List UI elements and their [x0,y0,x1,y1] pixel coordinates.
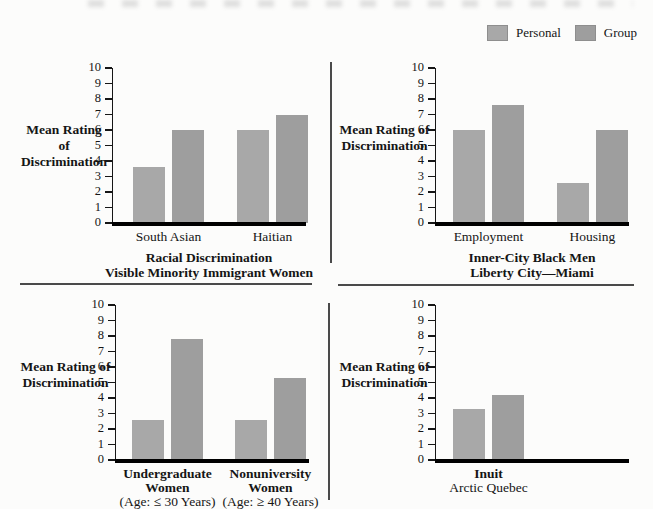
y-tick [105,98,112,99]
y-tick-label: 8 [399,329,424,342]
bar-group-0 [492,105,524,223]
y-tick-label: 9 [399,77,424,90]
y-tick [108,428,115,429]
y-tick-label: 6 [76,123,101,136]
bar-personal-0 [453,130,485,223]
chart-title-line: Liberty City—Miami [415,265,649,280]
y-tick-label: 9 [399,314,424,327]
y-tick-label: 7 [399,108,424,121]
category-label-1: Haitian [198,230,348,244]
bar-group-0 [172,130,204,223]
category-sublabel: (Age: ≥ 40 Years) [196,495,346,509]
legend-label-group: Group [604,25,637,41]
y-tick-label: 2 [399,422,424,435]
y-tick [105,67,112,68]
y-tick [108,335,115,336]
y-tick-label: 1 [76,201,101,214]
y-tick-label: 6 [399,360,424,373]
y-tick [428,304,435,305]
y-tick [105,222,112,223]
y-tick [428,129,435,130]
y-tick [428,335,435,336]
y-tick [428,145,435,146]
chart-top-left: Mean Rating ofDiscrimination012345678910… [20,60,316,271]
y-tick-label: 2 [76,185,101,198]
y-tick-label: 2 [399,185,424,198]
y-tick [428,207,435,208]
y-tick-label: 5 [399,139,424,152]
y-tick-label: 10 [399,298,424,311]
x-axis-baseline [115,459,309,463]
legend-swatch-group [575,25,596,41]
y-tick-label: 4 [399,154,424,167]
bar-personal-1 [235,420,267,460]
chart-title: Inner-City Black MenLiberty City—Miami [415,250,649,280]
category-label-line: Inuit [414,467,564,481]
y-tick [428,320,435,321]
y-tick-label: 8 [76,92,101,105]
plot-area: 012345678910 [115,305,309,460]
y-tick [428,160,435,161]
category-label-1: NonuniversityWomen(Age: ≥ 40 Years) [196,467,346,509]
y-tick [105,191,112,192]
y-tick-label: 8 [399,92,424,105]
y-tick [428,191,435,192]
y-axis-line [435,305,436,460]
y-tick-label: 0 [399,453,424,466]
category-label-line: Housing [518,230,653,244]
y-tick [108,444,115,445]
y-tick-label: 7 [76,108,101,121]
y-tick [108,459,115,460]
chart-bottom-right: Mean Rating ofDiscrimination012345678910… [338,295,639,506]
y-tick [108,382,115,383]
y-axis-line [112,68,113,223]
y-tick [428,397,435,398]
y-tick [428,114,435,115]
y-tick [105,176,112,177]
bar-personal-0 [133,167,165,223]
y-tick-label: 5 [79,376,104,389]
divider-vertical-bottom [328,303,330,500]
bar-group-0 [171,339,203,460]
y-tick-label: 3 [79,407,104,420]
category-label-1: Housing [518,230,653,244]
y-tick [428,413,435,414]
bar-group-1 [276,115,308,224]
category-label-line: Nonuniversity [196,467,346,481]
y-tick-label: 0 [79,453,104,466]
y-tick-label: 0 [399,216,424,229]
y-tick [428,222,435,223]
y-tick [428,98,435,99]
legend-label-personal: Personal [516,25,561,41]
bar-group-1 [596,130,628,223]
y-tick-label: 0 [76,216,101,229]
y-tick [108,304,115,305]
y-tick [428,83,435,84]
y-tick [108,320,115,321]
chart-top-right: Mean Rating ofDiscrimination012345678910… [338,60,639,271]
y-tick [105,83,112,84]
y-tick [428,366,435,367]
category-label-0: InuitArctic Quebec [414,467,564,495]
legend: Personal Group [487,25,637,41]
y-tick [428,444,435,445]
y-tick [108,351,115,352]
y-tick-label: 10 [399,61,424,74]
y-tick-label: 5 [76,139,101,152]
y-tick [105,207,112,208]
bar-group-0 [492,395,524,460]
legend-swatch-personal [487,25,508,41]
y-tick-label: 4 [399,391,424,404]
chart-title-line: Racial Discrimination [92,250,326,265]
y-tick [108,397,115,398]
y-tick-label: 1 [79,438,104,451]
y-tick [428,428,435,429]
y-tick [108,413,115,414]
y-tick-label: 1 [399,201,424,214]
y-tick [428,67,435,68]
y-tick-label: 4 [76,154,101,167]
divider-vertical-top [330,62,332,263]
y-tick-label: 4 [79,391,104,404]
chart-title: Racial DiscriminationVisible Minority Im… [92,250,326,280]
